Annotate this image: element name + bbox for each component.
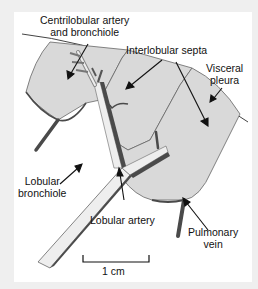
label-lobular-artery: Lobular artery [90, 214, 155, 226]
label-pulmonary-vein: Pulmonary vein [188, 226, 238, 250]
scale-bar [83, 255, 149, 262]
label-centrilobular: Centrilobular artery and bronchiole [40, 14, 129, 38]
pulmonary-vein [178, 200, 184, 236]
scale-bar-label: 1 cm [102, 265, 125, 277]
septal-vein-left [36, 120, 58, 150]
label-interlobular-septa: Interlobular septa [126, 44, 207, 56]
label-lobular-bronchiole: Lobular bronchiole [18, 175, 66, 199]
label-visceral-pleura: Visceral pleura [206, 62, 243, 86]
